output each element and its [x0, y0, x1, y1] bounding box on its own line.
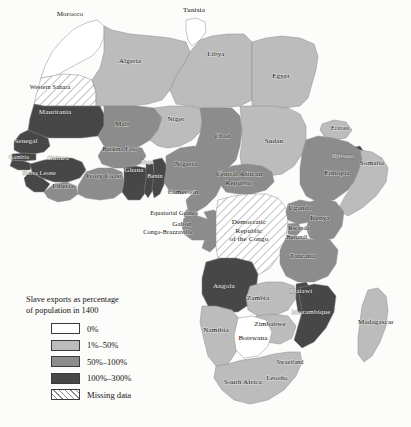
legend-label: 1%–50%: [87, 340, 119, 350]
country-label-togo: Togo: [140, 158, 153, 165]
legend-swatch: [51, 356, 80, 367]
country-label-botswana: Botswana: [238, 334, 268, 342]
country-label-benin: Benin: [147, 172, 163, 179]
legend-label: 0%: [87, 324, 98, 334]
country-label-nigeria: Nigeria: [175, 160, 198, 168]
shape-mali: [98, 106, 162, 150]
legend-label: 50%–100%: [87, 357, 127, 367]
legend-items: 0%1%–50%50%–100%100%–300%Missing data: [24, 321, 192, 402]
country-label-senegal: Senegal: [14, 137, 38, 145]
country-label-madagascar: Madagascar: [358, 318, 394, 326]
country-label-gabon: Gabon: [172, 220, 192, 228]
country-label-south-africa: South Africa: [224, 378, 263, 386]
shape-morocco: [41, 20, 104, 78]
country-label-somalia: Somalia: [360, 159, 385, 167]
country-label-swaziland: Swaziland: [276, 358, 304, 365]
country-label-kenya: Kenya: [310, 214, 330, 222]
map-legend: Slave exports as percentage of populatio…: [24, 294, 192, 404]
country-label-ethiopia: Ethiopia: [324, 169, 350, 177]
country-label-morocco: Morocco: [57, 10, 84, 18]
legend-title: Slave exports as percentage of populatio…: [26, 294, 192, 316]
country-label-mozambique: Mozambique: [292, 308, 331, 316]
country-label-cameroon: Cameroon: [168, 188, 199, 196]
country-label-burundi: Burundi: [286, 233, 307, 240]
legend-row: 1%–50%: [24, 338, 192, 353]
legend-swatch: [51, 373, 80, 384]
country-label-liberia: Liberia: [52, 182, 74, 190]
country-label-egypt: Egypt: [272, 72, 290, 80]
country-label-western-sahara: Western Sahara: [30, 83, 71, 90]
country-label-algeria: Algeria: [119, 57, 142, 65]
country-label-eritrea: Eritrea: [331, 124, 349, 131]
legend-label: Missing data: [87, 390, 131, 400]
legend-row: Missing data: [24, 387, 192, 402]
country-label-tunisia: Tunisia: [183, 6, 206, 14]
country-label-zambia: Zambia: [247, 294, 270, 302]
country-label-congo-brazzaville: Congo-Brazzaville: [143, 228, 192, 235]
country-label-mauritania: Mauritania: [39, 108, 72, 116]
country-label-djibouti: Djibouti: [332, 152, 354, 159]
country-label-lesotho: Lesotho: [267, 374, 288, 381]
country-label-gambia: Gambia: [9, 153, 30, 160]
country-label-namibia: Namibia: [203, 326, 229, 334]
country-label-burkina-faso: Burkina Faso: [103, 145, 138, 152]
country-label-guinea: Guinea: [47, 154, 69, 162]
country-label-sierra-leone: Sierra Leone: [22, 169, 56, 176]
country-label-niger: Niger: [168, 115, 185, 123]
legend-row: 100%–300%: [24, 371, 192, 386]
country-label-mali: Mali: [115, 120, 129, 128]
country-label-ghana: Ghana: [124, 166, 144, 174]
country-label-malawi: Malawi: [290, 287, 313, 295]
legend-swatch: [51, 340, 80, 351]
country-label-equatorial-guinea: Equatorial Guinea: [150, 209, 198, 216]
country-label-chad: Chad: [214, 132, 230, 140]
shape-western-sahara: [34, 74, 96, 106]
country-label-rwanda: Rwanda: [288, 224, 309, 231]
country-label-libya: Libya: [207, 50, 225, 58]
legend-label: 100%–300%: [87, 373, 131, 383]
country-label-zimbabwe: Zimbabwe: [254, 320, 286, 328]
legend-swatch: [51, 323, 80, 334]
country-label-sudan: Sudan: [265, 137, 284, 145]
shape-tanzania: [280, 238, 338, 282]
country-label-tanzania: Tanzania: [290, 252, 317, 260]
legend-swatch: [51, 389, 80, 400]
country-label-angola: Angola: [213, 282, 235, 290]
legend-row: 50%–100%: [24, 354, 192, 369]
legend-row: 0%: [24, 321, 192, 336]
country-label-ivory-coast: Ivory Coast: [87, 172, 122, 180]
africa-slave-exports-map: MoroccoTunisiaAlgeriaLibyaEgyptWestern S…: [0, 0, 411, 427]
country-label-uganda: Uganda: [289, 204, 313, 212]
